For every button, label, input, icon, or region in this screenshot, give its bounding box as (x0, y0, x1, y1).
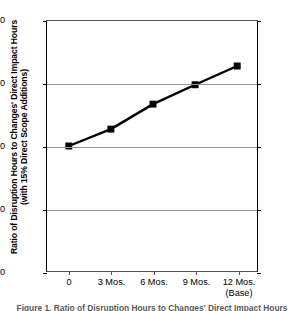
y-axis-tick-label-left: 4.0 (0, 16, 5, 25)
x-axis-tick-label-main: 3 Mos. (98, 277, 126, 288)
y-axis-tick-mark (257, 147, 261, 148)
gridline (47, 210, 257, 211)
plot-area: 0.00.01.01.02.02.03.03.04.04.003 Mos.6 M… (46, 20, 258, 272)
y-axis-tick-mark (43, 21, 47, 22)
x-axis-tick-label: 9 Mos. (183, 277, 211, 288)
x-axis-tick-mark (111, 271, 112, 275)
y-axis-tick-mark (257, 210, 261, 211)
x-axis-tick-mark (196, 271, 197, 275)
y-axis-tick-mark (43, 210, 47, 211)
chart-figure: Ratio of Disruption Hours to Changes' Di… (0, 0, 304, 311)
x-axis-tick-label: 0 (66, 277, 71, 288)
y-axis-title: Ratio of Disruption Hours to Changes' Di… (0, 0, 26, 275)
x-axis-tick-label-main: 12 Mos. (223, 277, 256, 288)
y-axis-tick-mark (43, 84, 47, 85)
y-axis-tick-label-left: 1.0 (0, 205, 5, 214)
data-point-marker (107, 126, 114, 133)
y-axis-tick-label-left: 0.0 (0, 268, 5, 277)
y-axis-tick-mark (257, 84, 261, 85)
y-axis-tick-label-left: 3.0 (0, 79, 5, 88)
x-axis-tick-mark (239, 271, 240, 275)
y-axis-title-line-2: (with 15% Direct Scope Additions) (19, 69, 30, 205)
x-axis-tick-mark (69, 271, 70, 275)
x-axis-tick-label: 12 Mos.(Base) (223, 277, 256, 298)
data-point-marker (192, 81, 199, 88)
gridline (47, 147, 257, 148)
x-axis-tick-label: 6 Mos. (140, 277, 168, 288)
data-point-marker (234, 63, 241, 70)
y-axis-tick-mark (257, 21, 261, 22)
y-axis-tick-mark (257, 273, 261, 274)
x-axis-tick-mark (154, 271, 155, 275)
y-axis-tick-mark (43, 273, 47, 274)
x-axis-tick-label-main: 6 Mos. (140, 277, 168, 288)
figure-caption: Figure 1. Ratio of Disruption Hours to C… (0, 303, 304, 311)
y-axis-title-line-1: Ratio of Disruption Hours to Changes' Di… (9, 20, 20, 254)
y-axis-tick-mark (43, 147, 47, 148)
x-axis-tick-label: 3 Mos. (98, 277, 126, 288)
data-point-marker (150, 101, 157, 108)
x-axis-tick-label-sub: (Base) (223, 288, 256, 299)
y-axis-tick-label-left: 2.0 (0, 142, 5, 151)
x-axis-tick-label-main: 9 Mos. (183, 277, 211, 288)
x-axis-tick-label-main: 0 (66, 277, 71, 288)
gridline (47, 84, 257, 85)
